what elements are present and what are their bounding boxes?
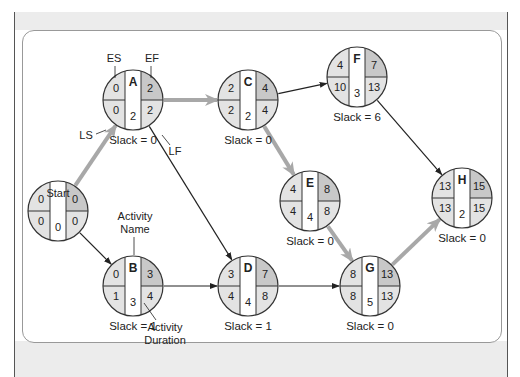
node-lf-value: 4 <box>147 290 153 302</box>
node-ef-value: 13 <box>381 268 393 280</box>
node-es-value: 2 <box>228 82 234 94</box>
node-slack-label: Slack = 0 <box>109 134 157 146</box>
node-lf-value: 13 <box>381 290 393 302</box>
node-duration-value: 2 <box>459 208 465 220</box>
node-duration-value: 0 <box>55 221 61 233</box>
node-slack-label: Slack = 1 <box>224 320 272 332</box>
diagram-page: Start00000A02022Slack = 0B03143Slack = 1… <box>0 0 520 377</box>
node-ef-value: 4 <box>262 82 268 94</box>
node-es-value: 3 <box>228 268 234 280</box>
node-g: G8138135Slack = 0 <box>340 256 400 332</box>
edge-c-to-f <box>278 83 326 93</box>
legend-ef-label: EF <box>145 52 159 64</box>
node-f: F4710133Slack = 6 <box>327 47 387 123</box>
node-activity-name: G <box>365 261 374 275</box>
edge-g-to-h <box>392 219 439 264</box>
node-duration-value: 3 <box>354 87 360 99</box>
legend-lf-pointer <box>162 135 170 145</box>
legend-lf-label: LF <box>169 145 182 157</box>
node-e: E48484Slack = 0 <box>280 171 340 247</box>
node-duration-value: 3 <box>130 296 136 308</box>
node-duration-value: 4 <box>245 296 251 308</box>
node-ls-value: 2 <box>228 104 234 116</box>
node-ls-value: 13 <box>439 202 451 214</box>
node-activity-name: Start <box>46 187 69 199</box>
node-duration-value: 2 <box>245 110 251 122</box>
node-es-value: 8 <box>350 268 356 280</box>
node-ls-value: 4 <box>228 290 234 302</box>
node-slack-label: Slack = 0 <box>438 232 486 244</box>
node-ef-value: 2 <box>147 82 153 94</box>
node-ef-value: 7 <box>262 268 268 280</box>
node-a: A02022Slack = 0 <box>103 70 163 146</box>
node-activity-name: C <box>244 75 253 89</box>
node-lf-value: 0 <box>72 215 78 227</box>
node-activity-name: E <box>306 176 314 190</box>
node-lf-value: 4 <box>262 104 268 116</box>
node-slack-label: Slack = 0 <box>224 134 272 146</box>
node-ls-value: 4 <box>290 205 296 217</box>
node-slack-label: Slack = 6 <box>333 111 381 123</box>
node-es-value: 4 <box>337 59 343 71</box>
node-lf-value: 15 <box>473 202 485 214</box>
node-es-value: 0 <box>113 268 119 280</box>
legend-ls-label: LS <box>79 129 92 141</box>
edge-start-to-b <box>80 233 111 264</box>
legend-activity-duration-line1: Activity <box>148 321 183 333</box>
node-start: Start00000 <box>28 181 88 241</box>
node-duration-value: 2 <box>130 110 136 122</box>
node-ef-value: 0 <box>72 193 78 205</box>
node-slack-label: Slack = 0 <box>286 235 334 247</box>
node-activity-name: B <box>129 261 138 275</box>
nodes: Start00000A02022Slack = 0B03143Slack = 1… <box>28 47 492 332</box>
edge-a-to-d <box>149 126 231 259</box>
node-ls-value: 0 <box>113 104 119 116</box>
node-es-value: 0 <box>113 82 119 94</box>
node-ls-value: 1 <box>113 290 119 302</box>
legend-activity-duration-line2: Duration <box>144 334 186 346</box>
node-ef-value: 3 <box>147 268 153 280</box>
node-lf-value: 2 <box>147 104 153 116</box>
node-duration-value: 5 <box>367 296 373 308</box>
node-ef-value: 8 <box>324 183 330 195</box>
node-es-value: 0 <box>38 193 44 205</box>
node-ef-value: 7 <box>371 59 377 71</box>
node-h: H131513152Slack = 0 <box>432 168 492 244</box>
legend-es-label: ES <box>107 52 122 64</box>
node-es-value: 4 <box>290 183 296 195</box>
node-duration-value: 4 <box>307 211 313 223</box>
node-ef-value: 15 <box>473 180 485 192</box>
node-ls-value: 0 <box>38 215 44 227</box>
node-slack-label: Slack = 0 <box>346 320 394 332</box>
legend-ls-pointer <box>96 130 106 134</box>
node-lf-value: 8 <box>262 290 268 302</box>
node-activity-name: D <box>244 261 253 275</box>
edge-f-to-h <box>377 100 441 174</box>
node-es-value: 13 <box>439 180 451 192</box>
legend-activity-name-line1: Activity <box>118 210 153 222</box>
node-activity-name: F <box>353 52 360 66</box>
node-c: C24242Slack = 0 <box>218 70 278 146</box>
legend-activity-name-line2: Name <box>120 223 149 235</box>
node-ls-value: 10 <box>334 81 346 93</box>
node-activity-name: A <box>129 75 138 89</box>
node-activity-name: H <box>458 173 467 187</box>
activity-network: Start00000A02022Slack = 0B03143Slack = 1… <box>0 0 520 377</box>
node-lf-value: 8 <box>324 205 330 217</box>
node-d: D37484Slack = 1 <box>218 256 278 332</box>
node-ls-value: 8 <box>350 290 356 302</box>
node-lf-value: 13 <box>368 81 380 93</box>
